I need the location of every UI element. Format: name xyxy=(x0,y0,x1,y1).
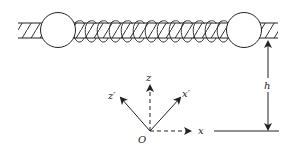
x-prime-axis xyxy=(150,98,180,131)
coordinate-frame: z z′ x′ x O xyxy=(107,72,204,145)
spring-coil-bottom xyxy=(112,38,120,42)
right-bead xyxy=(227,13,262,48)
z-prime-label: z′ xyxy=(107,90,116,101)
spring-coil-bottom xyxy=(220,38,228,42)
spring-coil-bottom xyxy=(136,38,144,42)
height-label: h xyxy=(264,80,270,91)
height-dimension: h xyxy=(214,42,279,131)
spring-coil-bottom xyxy=(124,38,132,42)
spring-coil-bottom xyxy=(196,38,204,42)
spring-coil-bottom xyxy=(172,38,180,42)
spring-coil-bottom xyxy=(184,38,192,42)
spring-coil-bottom xyxy=(100,38,108,42)
origin-label: O xyxy=(138,134,146,145)
spring-coil-bottom xyxy=(208,38,216,42)
spring-coil-bottom xyxy=(88,38,96,42)
x-label: x xyxy=(198,125,204,136)
spring-coil-bottom xyxy=(160,38,168,42)
spring-coil-bottom xyxy=(76,38,84,42)
diagram-canvas: h z z′ x′ x O xyxy=(0,0,296,148)
z-prime-axis xyxy=(121,98,150,131)
z-label: z xyxy=(145,72,152,83)
x-prime-label: x′ xyxy=(182,88,191,99)
spring-coil-bottom xyxy=(148,38,156,42)
left-bead xyxy=(41,13,76,48)
